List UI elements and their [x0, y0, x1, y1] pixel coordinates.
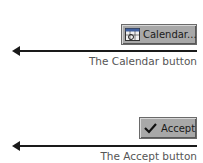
- accept-button-label: Accept: [161, 123, 195, 134]
- accept-button[interactable]: Accept: [139, 117, 197, 139]
- calendar-caption: The Calendar button: [89, 55, 197, 67]
- calendar-button[interactable]: Calendar...: [121, 24, 197, 45]
- callout-arrow: [14, 145, 197, 147]
- callout-arrow: [14, 50, 197, 52]
- checkmark-icon: [144, 122, 157, 134]
- accept-caption: The Accept button: [100, 150, 197, 162]
- calendar-button-label: Calendar...: [143, 29, 197, 40]
- calendar-icon: [125, 28, 140, 41]
